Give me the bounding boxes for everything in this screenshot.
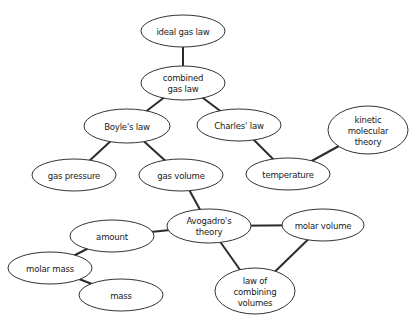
node-label: combining <box>234 286 277 297</box>
node-label: gas law <box>167 83 198 94</box>
node-mass: mass <box>79 279 163 311</box>
node-label: volumes <box>238 297 273 308</box>
node-label: molar mass <box>26 263 75 274</box>
node-label: Avogadro's <box>187 215 233 226</box>
node-label: kinetic <box>354 114 382 125</box>
node-label: combined <box>163 72 204 83</box>
node-label: temperature <box>262 169 314 180</box>
node-label: amount <box>96 231 129 242</box>
concept-nodes: ideal gas lawcombinedgas lawBoyle's lawC… <box>8 15 408 314</box>
node-label: Boyle's law <box>104 121 150 132</box>
node-label: mass <box>110 290 132 301</box>
node-law-of-combining-volumes: law ofcombiningvolumes <box>215 268 295 314</box>
node-combined-gas-law: combinedgas law <box>141 66 225 100</box>
node-charles-law: Charles' law <box>197 109 281 141</box>
node-ideal-gas-law: ideal gas law <box>141 15 225 47</box>
node-label: law of <box>243 275 269 286</box>
node-label: gas volume <box>157 170 205 181</box>
node-label: theory <box>355 136 382 147</box>
node-molar-mass: molar mass <box>8 252 92 284</box>
node-label: molar volume <box>295 220 352 231</box>
node-temperature: temperature <box>246 158 330 190</box>
concept-map: ideal gas lawcombinedgas lawBoyle's lawC… <box>0 0 416 329</box>
node-amount: amount <box>70 220 154 252</box>
node-gas-pressure: gas pressure <box>32 159 116 191</box>
node-label: ideal gas law <box>156 26 209 37</box>
node-molar-volume: molar volume <box>282 209 364 241</box>
node-avogadros-theory: Avogadro'stheory <box>167 209 251 243</box>
node-gas-volume: gas volume <box>139 159 223 191</box>
node-label: Charles' law <box>214 120 264 131</box>
node-boyles-law: Boyle's law <box>84 109 170 143</box>
node-label: theory <box>196 226 223 237</box>
node-label: molecular <box>348 125 389 136</box>
node-kinetic-molecular-theory: kineticmoleculartheory <box>328 106 408 154</box>
node-label: gas pressure <box>48 170 100 181</box>
